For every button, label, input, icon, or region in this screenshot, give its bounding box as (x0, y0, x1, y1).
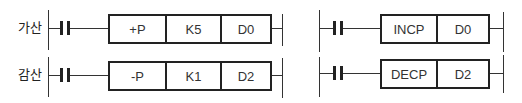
instruction-block-decp: DECP D2 (380, 59, 490, 89)
instruction-block-incp: INCP D0 (380, 14, 490, 44)
wire (490, 28, 503, 29)
wire (48, 75, 60, 76)
wire (319, 28, 333, 29)
instruction-cell: -P (110, 63, 165, 89)
wire (70, 75, 108, 76)
instruction-block-add: +P K5 D0 (108, 14, 272, 44)
left-power-rail-2 (319, 57, 320, 97)
operand-cell: D2 (436, 61, 488, 87)
rung-label-subtract: 감산 (18, 67, 42, 83)
operand-cell: K1 (165, 63, 220, 89)
instruction-block-subtract: -P K1 D2 (108, 61, 272, 91)
wire (272, 75, 282, 76)
operand-cell: D2 (220, 63, 270, 89)
operand-cell: D0 (436, 16, 488, 42)
wire (272, 28, 282, 29)
left-power-rail-2 (48, 57, 49, 97)
wire (490, 73, 503, 74)
left-power-rail-1 (48, 10, 49, 50)
wire (70, 28, 108, 29)
left-power-rail-1 (319, 10, 320, 52)
instruction-cell: DECP (382, 61, 436, 87)
right-power-rail-1 (503, 12, 504, 52)
wire (343, 73, 380, 74)
operand-cell: D0 (220, 16, 270, 42)
right-power-rail-2 (282, 58, 283, 98)
right-power-rail-2 (503, 55, 504, 93)
instruction-cell: INCP (382, 16, 436, 42)
wire (319, 73, 333, 74)
instruction-cell: +P (110, 16, 165, 42)
wire (343, 28, 380, 29)
right-power-rail-1 (282, 14, 283, 46)
wire (48, 28, 60, 29)
operand-cell: K5 (165, 16, 220, 42)
rung-label-add: 가산 (18, 20, 42, 36)
